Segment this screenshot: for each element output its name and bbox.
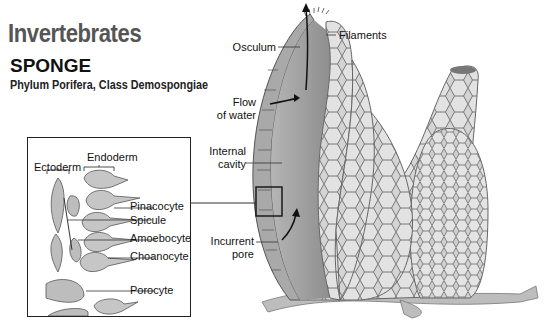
- label-flow-1: Flow: [214, 96, 256, 109]
- label-incurrent-1: Incurrent: [200, 235, 254, 248]
- label-cavity-1: Internal: [200, 145, 246, 158]
- label-osculum: Osculum: [226, 41, 276, 54]
- label-amoebocyte: Amoebocyte: [130, 232, 191, 245]
- label-filaments: Filaments: [339, 29, 387, 42]
- label-endoderm: Endoderm: [87, 151, 138, 164]
- label-pinacocyte: Pinacocyte: [130, 200, 184, 213]
- cell-detail-inset: Ectoderm Endoderm Pinacocyte Spicule Amo…: [27, 137, 191, 317]
- label-spicule: Spicule: [130, 214, 166, 227]
- label-incurrent-2: pore: [200, 248, 254, 261]
- label-flow-2: of water: [214, 109, 256, 122]
- label-porocyte: Porocyte: [130, 284, 173, 297]
- label-cavity-2: cavity: [200, 158, 246, 171]
- label-choanocyte: Choanocyte: [130, 250, 189, 263]
- label-ectoderm: Ectoderm: [34, 161, 81, 174]
